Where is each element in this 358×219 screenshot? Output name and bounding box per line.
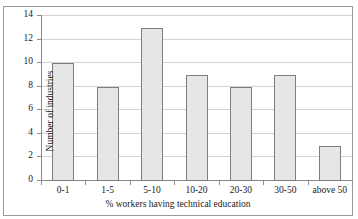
- x-axis-tick: [130, 181, 131, 185]
- x-axis-tick: [308, 181, 309, 185]
- bar: [52, 63, 74, 181]
- bar: [97, 87, 119, 181]
- y-axis-tick-label: 6: [4, 104, 33, 114]
- bar: [230, 87, 252, 181]
- y-axis-title: Number of industries: [45, 71, 55, 152]
- x-axis-tick: [263, 181, 264, 185]
- bar: [274, 75, 296, 181]
- y-axis-tick-label: 0: [4, 175, 33, 185]
- y-axis-tick-label: 8: [4, 81, 33, 91]
- page-text-remnant: [30, 0, 180, 3]
- bar: [141, 28, 163, 181]
- x-axis-tick-label: 30-50: [274, 186, 296, 196]
- x-axis-tick-label: 20-30: [230, 186, 252, 196]
- x-axis-tick-label: 10-20: [185, 186, 207, 196]
- y-axis-tick-label: 14: [4, 10, 33, 20]
- x-axis-tick: [352, 181, 353, 185]
- x-axis-tick-label: 1-5: [101, 186, 114, 196]
- y-axis-tick-label: 2: [4, 151, 33, 161]
- chart-frame: 02468101214 0-11-55-1010-2020-3030-50abo…: [3, 6, 353, 216]
- x-axis-tick: [219, 181, 220, 185]
- x-axis-tick: [41, 181, 42, 185]
- x-axis-tick-label: 5-10: [143, 186, 160, 196]
- x-axis-tick-label: above 50: [313, 186, 348, 196]
- bar: [186, 75, 208, 181]
- bars-group: [41, 15, 352, 181]
- chart-figure: 02468101214 0-11-55-1010-2020-3030-50abo…: [0, 0, 358, 219]
- x-axis-title: % workers having technical education: [4, 199, 352, 209]
- x-axis-tick-label: 0-1: [57, 186, 70, 196]
- x-axis-tick: [85, 181, 86, 185]
- y-axis-tick-label: 10: [4, 57, 33, 67]
- y-axis-tick-label: 4: [4, 128, 33, 138]
- x-axis-tick: [174, 181, 175, 185]
- y-axis-tick-label: 12: [4, 34, 33, 44]
- bar: [319, 146, 341, 181]
